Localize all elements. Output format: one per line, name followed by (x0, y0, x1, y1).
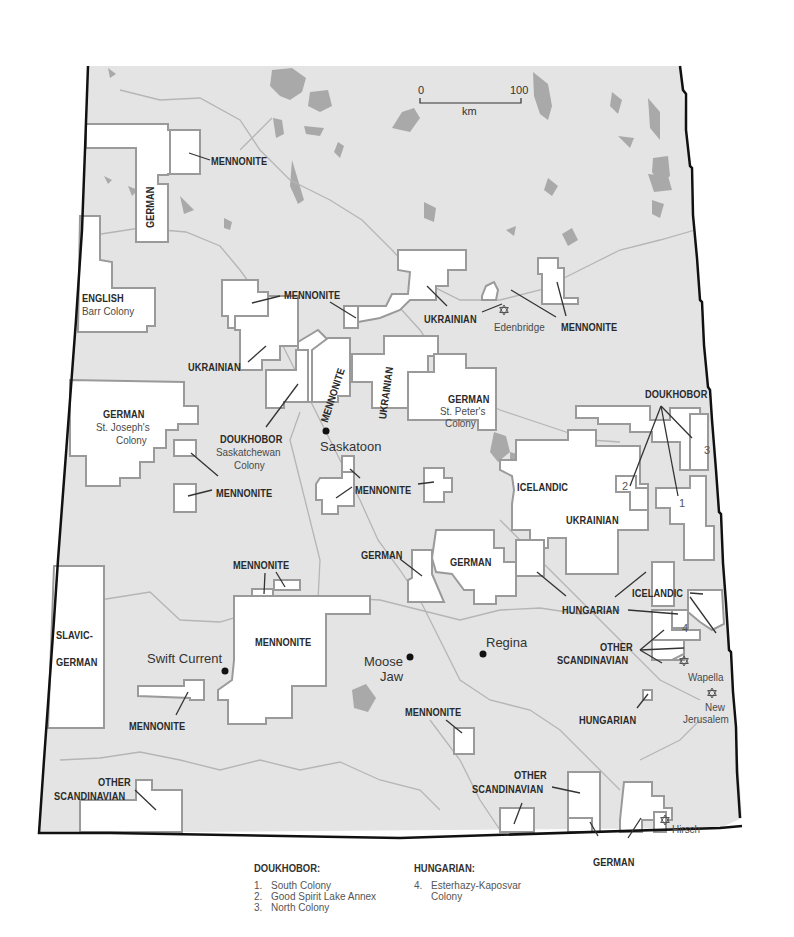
legend-hungarian-title: HUNGARIAN: (414, 862, 510, 874)
label-mennonite-sw: MENNONITE (129, 720, 185, 732)
legend-item: Colony (414, 891, 521, 902)
label-scandinavian-se: SCANDINAVIAN (557, 654, 628, 666)
city-swift-current: Swift Current (147, 652, 222, 666)
label-german-south: GERMAN (593, 856, 635, 868)
legend-doukhobor-title: DOUKHOBOR: (254, 862, 364, 874)
label-ukrainian-east: UKRAINIAN (566, 514, 619, 526)
label-ukrainian-nc: UKRAINIAN (188, 361, 241, 373)
label-mennonite-north: MENNONITE (211, 155, 267, 167)
label-new-jerusalem-1: New (705, 701, 725, 713)
legend-hungarian: HUNGARIAN: 4.Esterhazy-Kaposvar Colony (414, 862, 521, 902)
label-icelandic-north: ICELANDIC (517, 481, 568, 493)
scale-end-label: 100 (510, 84, 528, 96)
label-slavic-german: GERMAN (56, 656, 98, 668)
legend-doukhobor: DOUKHOBOR: 1.South Colony 2.Good Spirit … (254, 862, 376, 913)
label-mennonite-ne: MENNONITE (561, 321, 617, 333)
city-moose-jaw-1: Moose (364, 655, 403, 669)
label-saskatchewan: Saskatchewan (216, 446, 280, 458)
city-saskatoon: Saskatoon (320, 440, 381, 454)
label-hungarian-north: HUNGARIAN (562, 604, 619, 616)
label-german-st-peters: GERMAN (448, 393, 490, 405)
label-german-north: GERMAN (144, 186, 156, 228)
legend-item: 3.North Colony (254, 902, 376, 913)
label-other-s: OTHER (514, 769, 547, 781)
label-st-peters-colony: Colony (445, 417, 476, 429)
label-other-sw: OTHER (98, 776, 131, 788)
label-colony-4: 4 (682, 622, 688, 634)
label-colony-3: 3 (704, 444, 710, 456)
label-wapella: Wapella (688, 671, 723, 683)
label-mennonite-west: MENNONITE (216, 487, 272, 499)
legend-item: 2.Good Spirit Lake Annex (254, 891, 376, 902)
label-mennonite-big: MENNONITE (255, 636, 311, 648)
label-english: ENGLISH (82, 292, 124, 304)
label-colony-1: 1 (679, 497, 685, 509)
label-mennonite-saskatoon: MENNONITE (355, 484, 411, 496)
label-st-josephs: St. Joseph's (96, 421, 150, 433)
label-mennonite-nc: MENNONITE (284, 289, 340, 301)
label-icelandic-se: ICELANDIC (632, 587, 683, 599)
label-scandinavian-sw: SCANDINAVIAN (54, 790, 125, 802)
label-slavic: SLAVIC- (56, 629, 93, 641)
legend-item: 1.South Colony (254, 880, 376, 891)
label-ukrainian-north: UKRAINIAN (424, 313, 477, 325)
label-mennonite-s: MENNONITE (405, 706, 461, 718)
label-hungarian-south: HUNGARIAN (579, 714, 636, 726)
label-st-josephs-colony: Colony (116, 434, 147, 446)
scale-start-label: 0 (418, 84, 424, 96)
label-colony-2: 2 (622, 480, 628, 492)
label-barr-colony: Barr Colony (82, 305, 134, 317)
label-doukhobor-east: DOUKHOBOR (645, 388, 707, 400)
city-moose-jaw-2: Jaw (380, 670, 403, 684)
legend-item: 4.Esterhazy-Kaposvar (414, 880, 521, 891)
label-german-regina-small: GERMAN (361, 549, 403, 561)
label-mennonite-sc: MENNONITE (233, 559, 289, 571)
label-other-se: OTHER (600, 641, 633, 653)
label-saskatchewan-colony: Colony (234, 459, 265, 471)
label-edenbridge: Edenbridge (494, 321, 545, 333)
label-doukhobor-sask: DOUKHOBOR (220, 433, 282, 445)
label-new-jerusalem-2: Jerusalem (683, 713, 729, 725)
label-st-peters: St. Peter's (440, 405, 485, 417)
scale-unit-label: km (462, 105, 477, 117)
label-german-st-josephs: GERMAN (103, 408, 145, 420)
city-regina: Regina (486, 636, 527, 650)
label-german-regina-big: GERMAN (450, 556, 492, 568)
label-scandinavian-s: SCANDINAVIAN (472, 783, 543, 795)
label-hirsch: Hirsch (672, 823, 700, 835)
